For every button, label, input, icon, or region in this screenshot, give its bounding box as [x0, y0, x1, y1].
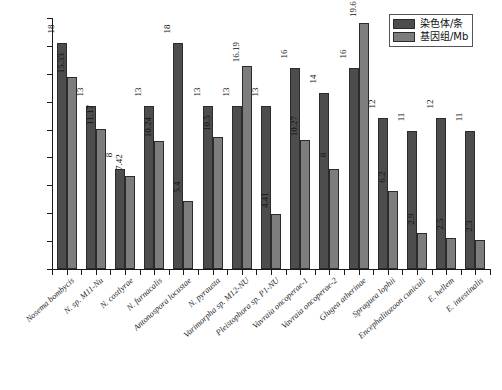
x-axis-tick	[183, 270, 184, 275]
legend-item-genome: 基因组/Mb	[393, 30, 468, 43]
legend-swatch-icon-chromosome	[393, 19, 415, 29]
bar-value-label: 7.42	[121, 168, 130, 184]
bar-genome: 4.41	[271, 214, 281, 269]
bar-value-label: 10.24	[150, 130, 159, 150]
bar-group: 1619.6	[344, 18, 373, 269]
plot-area: 1815.331311.1787.421310.24185.41310.5131…	[52, 18, 490, 269]
bar-genome: 6.2	[388, 191, 398, 269]
bar-genome: 2.3	[475, 240, 485, 269]
x-axis-category-label: Nosema bombycis	[24, 276, 75, 324]
chart-legend: 染色体/条 基因组/Mb	[389, 14, 473, 47]
x-axis-tick	[402, 270, 403, 275]
bar-value-label: 2.3	[471, 235, 480, 246]
bar-chromosome: 12	[436, 118, 446, 269]
bar-value-label: 8	[325, 166, 334, 171]
x-axis-tick	[446, 270, 447, 275]
x-axis-category-label: E. hellem	[426, 276, 456, 304]
bar-value-label: 14	[315, 89, 324, 98]
bar-chromosome: 18	[173, 43, 183, 269]
x-axis-tick	[67, 270, 68, 275]
x-axis-category-label: Vavraia oncoperae-1	[251, 276, 310, 330]
x-axis-category-label: Pleistophora sp. P1-NU	[214, 276, 281, 337]
bar-group: 122.5	[432, 18, 461, 269]
legend-item-chromosome: 染色体/条	[393, 17, 468, 30]
x-axis-category-label: Encephalitozoon cuniculi	[356, 276, 426, 340]
bar-group: 112.9	[402, 18, 431, 269]
x-axis-tick	[286, 270, 287, 275]
bar-value-label: 4.41	[267, 206, 276, 222]
bar-value-label: 13	[257, 101, 266, 110]
x-axis-tick	[198, 270, 199, 275]
bar-group: 1310.24	[140, 18, 169, 269]
x-axis-tick	[140, 270, 141, 275]
x-axis-tick	[52, 270, 53, 275]
x-axis-tick	[96, 270, 97, 275]
x-axis-tick	[344, 270, 345, 275]
bar-genome: 2.5	[446, 238, 456, 269]
bar-value-label: 2.5	[442, 232, 451, 243]
x-axis-tick	[169, 270, 170, 275]
bar-value-label: 18	[53, 39, 62, 48]
x-axis-category-label: Spraguea lophii	[351, 276, 397, 319]
x-axis-category-label: Antonospora locustae	[132, 276, 193, 332]
bar-genome: 10.27	[300, 140, 310, 269]
bar-value-label: 6.2	[384, 186, 393, 197]
bar-value-label: 16.19	[238, 56, 247, 76]
bar-chromosome: 16	[349, 68, 359, 269]
bar-value-label: 19.6	[355, 15, 364, 31]
legend-swatch-icon-genome	[393, 32, 415, 42]
x-axis-category-label: Vavraia oncoperae-2	[280, 276, 339, 330]
bar-value-label: 12	[374, 114, 383, 123]
x-axis-tick	[227, 270, 228, 275]
x-axis-tick	[154, 270, 155, 275]
x-axis-tick	[388, 270, 389, 275]
bar-genome: 19.6	[359, 23, 369, 269]
x-axis-tick	[373, 270, 374, 275]
bar-value-label: 13	[199, 101, 208, 110]
bar-value-label: 18	[169, 39, 178, 48]
x-axis-category-label: N. sp. M11-Nu	[63, 276, 105, 315]
x-axis-tick	[359, 270, 360, 275]
bar-group: 1610.27	[286, 18, 315, 269]
bar-value-label: 13	[228, 101, 237, 110]
bar-genome: 10.5	[213, 137, 223, 269]
x-axis-tick	[475, 270, 476, 275]
x-axis-tick	[329, 270, 330, 275]
bar-group: 112.3	[461, 18, 490, 269]
bar-value-label: 11.17	[92, 119, 101, 139]
x-axis-category-label: N. costlyrae	[98, 276, 134, 310]
bar-group: 1316.19	[227, 18, 256, 269]
bar-group: 87.42	[110, 18, 139, 269]
bar-genome: 10.24	[154, 141, 164, 270]
bar-group: 1310.5	[198, 18, 227, 269]
bar-value-label: 10.27	[296, 130, 305, 150]
bar-chromosome: 13	[261, 106, 271, 269]
x-axis-tick	[242, 270, 243, 275]
bar-group: 185.4	[169, 18, 198, 269]
x-axis-tick	[256, 270, 257, 275]
bar-chromosome: 16	[290, 68, 300, 269]
bar-chromosome: 13	[232, 106, 242, 269]
x-axis-tick	[432, 270, 433, 275]
bar-value-label: 16	[345, 64, 354, 73]
bar-group: 126.2	[373, 18, 402, 269]
bar-chromosome: 11	[407, 131, 417, 269]
x-axis-tick	[110, 270, 111, 275]
legend-label-chromosome: 染色体/条	[420, 19, 463, 29]
x-axis-tick	[81, 270, 82, 275]
x-axis-category-label: N. furnacalis	[125, 276, 164, 312]
bar-value-label: 2.9	[413, 227, 422, 238]
x-axis-category-label: Glugea atherinae	[318, 276, 368, 322]
x-axis-tick	[300, 270, 301, 275]
x-axis-category-label: E. intestinalis	[444, 276, 484, 314]
bar-genome: 8	[329, 169, 339, 269]
bar-group: 1815.33	[52, 18, 81, 269]
bar-value-label: 11	[403, 127, 412, 136]
x-axis-tick	[271, 270, 272, 275]
bar-value-label: 15.33	[63, 66, 72, 86]
bar-chromosome: 14	[319, 93, 329, 269]
bars-layer: 1815.331311.1787.421310.24185.41310.5131…	[52, 18, 490, 269]
x-axis-category-label: N. pyrausta	[187, 276, 222, 309]
bar-value-label: 5.4	[179, 196, 188, 207]
x-axis-tick	[490, 270, 491, 275]
